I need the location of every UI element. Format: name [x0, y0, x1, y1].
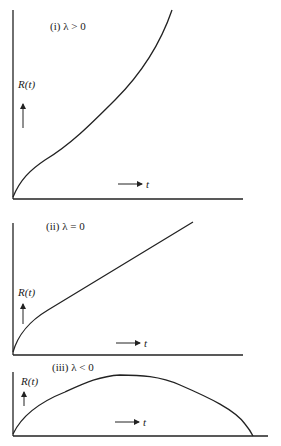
panel-title: (iii) λ < 0 — [52, 361, 94, 374]
x-axis-label: t — [144, 337, 148, 349]
x-axis-label: t — [143, 416, 147, 428]
panel-title: (i) λ > 0 — [50, 20, 86, 33]
y-axis-label: R(t) — [17, 78, 35, 91]
x-axis-label: t — [146, 178, 150, 190]
panel-ii: (ii) λ = 0 R(t) t — [13, 220, 243, 355]
y-axis-label: R(t) — [20, 375, 38, 388]
curve — [13, 375, 253, 436]
panel-i: (i) λ > 0 R(t) t — [13, 10, 243, 199]
curve — [13, 222, 193, 352]
y-axis-label: R(t) — [17, 286, 35, 299]
figure: (i) λ > 0 R(t) t (ii) λ = 0 R(t) t (iii)… — [0, 0, 281, 446]
panel-iii: (iii) λ < 0 R(t) t — [13, 361, 268, 436]
curve — [13, 10, 172, 197]
panel-title: (ii) λ = 0 — [46, 220, 85, 233]
